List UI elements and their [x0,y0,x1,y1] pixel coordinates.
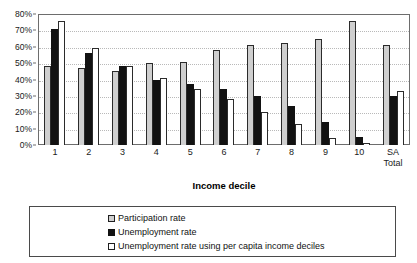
bar-group [106,14,140,145]
legend-swatch-icon [108,243,115,250]
bar-group [139,14,173,145]
bar-group [72,14,106,145]
bar-chart-figure: 80%70%60%50%40%30%20%10%0% 12345678910SA… [0,0,417,200]
chart-legend: Participation rateUnemployment rateUnemp… [29,206,396,257]
bar-group [173,14,207,145]
y-tick-label: 30% [15,91,32,100]
bar [349,21,356,145]
bar-group [309,14,343,145]
legend-item[interactable]: Unemployment rate using per capita incom… [30,239,395,253]
bar [126,66,133,145]
y-tick-mark [33,128,36,129]
bar [160,78,167,145]
x-tick-label: 7 [241,147,275,169]
bar [85,53,92,145]
x-tick-label: 10 [342,147,376,169]
bar-group [241,14,275,145]
bar [383,45,390,145]
bar [315,39,322,145]
bar-group [342,14,376,145]
bar [44,66,51,145]
x-tick-label: 8 [275,147,309,169]
y-tick-mark [33,112,36,113]
bar [295,124,302,145]
bar [187,84,194,145]
bar-group [275,14,309,145]
legend-item-label: Unemployment rate [118,227,197,237]
bar [397,91,404,145]
y-tick-mark [33,46,36,47]
bar [363,143,370,145]
bar [112,71,119,145]
bar [92,48,99,145]
y-tick-mark [33,14,36,15]
bar [194,89,201,145]
x-tick-label: SATotal [376,147,410,169]
bar [261,112,268,145]
x-tick-label: 9 [309,147,343,169]
y-tick-label: 10% [15,124,32,133]
bar [213,50,220,145]
legend-item[interactable]: Unemployment rate [30,225,395,239]
y-tick-label: 20% [15,108,32,117]
bar [119,66,126,145]
y-tick-label: 50% [15,59,32,68]
legend-item-label: Participation rate [118,213,186,223]
bar-group [376,14,410,145]
legend-item[interactable]: Participation rate [30,211,395,225]
bar [180,62,187,146]
bar [153,80,160,146]
y-tick-mark [33,79,36,80]
legend-item-label: Unemployment rate using per capita incom… [118,241,325,251]
y-axis: 80%70%60%50%40%30%20%10%0% [0,14,36,145]
legend-swatch-icon [108,229,115,236]
y-tick-mark [33,30,36,31]
bar [220,89,227,145]
x-tick-label: 3 [106,147,140,169]
x-axis: 12345678910SATotal [38,147,410,169]
bar [288,106,295,145]
x-tick-label: 1 [38,147,72,169]
bar [254,96,261,145]
bar [58,21,65,145]
y-tick-mark [33,145,36,146]
y-tick-label: 80% [15,10,32,19]
x-tick-label: 5 [173,147,207,169]
legend-swatch-icon [108,215,115,222]
y-tick-label: 40% [15,75,32,84]
x-tick-label: 6 [207,147,241,169]
bar [356,137,363,145]
x-tick-label: 4 [139,147,173,169]
y-tick-mark [33,95,36,96]
bars-layer [38,14,410,145]
y-tick-label: 60% [15,42,32,51]
y-tick-mark [33,63,36,64]
bar [329,138,336,145]
bar-group [38,14,72,145]
bar [146,63,153,145]
x-axis-title: Income decile [38,180,410,191]
x-tick-label: 2 [72,147,106,169]
y-tick-label: 70% [15,26,32,35]
bar-group [207,14,241,145]
bar [247,45,254,145]
bar [281,43,288,145]
bar [322,122,329,145]
bar [51,29,58,145]
bar [78,68,85,145]
bar [227,99,234,145]
y-tick-label: 0% [20,141,32,150]
bar [390,96,397,145]
